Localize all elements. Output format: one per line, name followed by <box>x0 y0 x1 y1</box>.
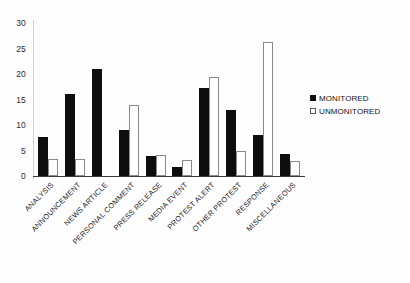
legend-swatch-hollow-square-icon <box>310 108 316 114</box>
legend-label-unmonitored: UNMONITORED <box>319 107 380 116</box>
legend-item-monitored: MONITORED <box>310 92 408 104</box>
legend-swatch-filled-square-icon <box>310 95 316 101</box>
x-axis-tick-labels: ANALYSISANNOUNCEMENTNEWS ARTICLEPERSONAL… <box>0 0 410 283</box>
bar-chart: 051015202530 ANALYSISANNOUNCEMENTNEWS AR… <box>0 0 410 283</box>
legend-item-unmonitored: UNMONITORED <box>310 105 408 117</box>
chart-legend: MONITORED UNMONITORED <box>310 92 408 118</box>
x-tick-label: MISCELLANEOUS <box>245 181 297 233</box>
legend-label-monitored: MONITORED <box>319 94 369 103</box>
